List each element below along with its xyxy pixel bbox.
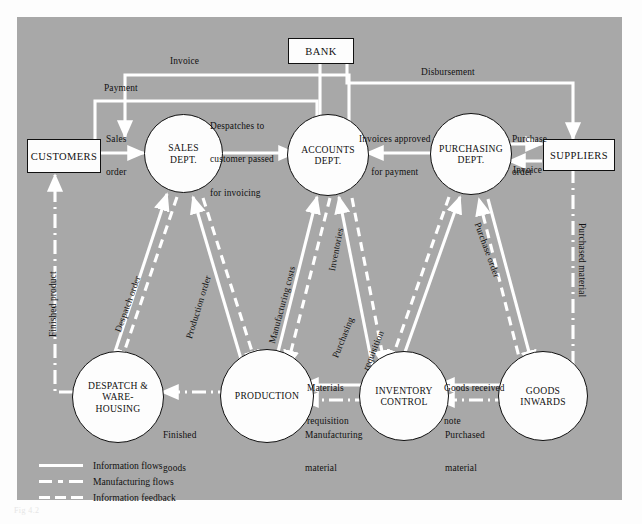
flow-label-invoices-approved-l2: for payment [359,167,431,178]
node-despatch-line3: HOUSING [88,403,148,414]
flow-label-despatches-l3: for invoicing [210,188,274,199]
node-despatch-warehousing[interactable]: DESPATCH & WARE- HOUSING [72,351,164,443]
flow-label-purchase-order-top: Purchase order [512,112,547,201]
node-purchasing-dept-line1: PURCHASING [439,143,503,154]
node-purchasing-dept[interactable]: PURCHASING DEPT. [430,113,512,195]
flow-label-materials-requisition-l1: Materials [307,383,349,394]
flow-label-manufacturing-material-l2: material [305,463,363,474]
node-customers-label: CUSTOMERS [31,151,97,162]
flow-label-purchased-material-bottom-l2: material [445,463,485,474]
node-production[interactable]: PRODUCTION [220,349,314,443]
legend-label-information-flows: Information flows [93,460,163,471]
legend-key-solid-icon [39,460,83,470]
flow-label-sales-order-l1: Sales [106,134,127,145]
legend-item-information-flows: Information flows [39,457,176,473]
legend-item-information-feedback: Information feedback [39,489,176,505]
flow-label-purchased-material-right: Purchased material [576,223,587,297]
node-inventory-line1: INVENTORY [375,385,433,396]
node-purchasing-dept-line2: DEPT. [439,154,503,165]
flow-label-invoice-top: Invoice [170,56,199,67]
flow-label-sales-order: Sales order [106,112,127,201]
node-goods-inwards[interactable]: GOODS INWARDS [498,351,588,441]
flow-label-manufacturing-material-l1: Manufacturing [305,430,363,441]
flow-label-finished-goods-l1: Finished [163,430,197,441]
legend-key-dashed-icon [39,492,83,502]
flow-label-payment: Payment [104,83,138,94]
flow-label-purchased-material-bottom: Purchased material [445,408,485,497]
flow-label-invoices-approved-l1: Invoices approved [359,134,431,145]
flow-label-purchased-material-bottom-l1: Purchased [445,430,485,441]
legend: Information flows Manufacturing flows In… [39,457,176,505]
node-suppliers[interactable]: SUPPLIERS [543,139,615,171]
node-sales-dept-line1: SALES [168,142,199,153]
legend-label-manufacturing-flows: Manufacturing flows [93,476,174,487]
flow-label-despatches-l1: Despatches to [210,121,274,132]
node-despatch-line1: DESPATCH & [88,380,148,391]
flow-label-purchasing-requisition-l2: requisition [361,328,388,372]
flow-label-manufacturing-material: Manufacturing material [305,408,363,497]
node-goods-inwards-line1: GOODS [520,385,565,396]
node-sales-dept-line2: DEPT. [168,154,199,165]
flow-label-purchasing-requisition-l1: Purchasing [330,315,357,359]
legend-label-information-feedback: Information feedback [93,492,176,503]
flow-label-despatches: Despatches to customer passed for invoic… [210,99,274,221]
diagram-panel: CUSTOMERS BANK SUPPLIERS SALES DEPT. ACC… [17,17,622,500]
node-inventory-line2: CONTROL [375,396,433,407]
node-suppliers-label: SUPPLIERS [550,150,608,161]
flow-label-despatches-l2: customer passed [210,154,274,165]
node-goods-inwards-line2: INWARDS [520,396,565,407]
node-accounts-dept[interactable]: ACCOUNTS DEPT. [287,114,369,196]
flow-label-purchase-order-top-l1: Purchase [512,134,547,145]
flow-label-invoices-approved: Invoices approved for payment [359,112,431,201]
node-bank[interactable]: BANK [288,38,354,64]
flow-label-finished-product: Finished product [48,271,59,337]
node-customers[interactable]: CUSTOMERS [27,139,101,173]
figure-stage: CUSTOMERS BANK SUPPLIERS SALES DEPT. ACC… [0,0,642,524]
node-bank-label: BANK [305,46,336,57]
node-production-line1: PRODUCTION [235,390,299,401]
figure-caption: Fig 4.2 [14,506,39,515]
flow-label-sales-order-l2: order [106,167,127,178]
node-accounts-dept-line1: ACCOUNTS [301,144,355,155]
legend-key-dash-dot-icon [39,476,83,486]
node-accounts-dept-line2: DEPT. [301,155,355,166]
legend-item-manufacturing-flows: Manufacturing flows [39,473,176,489]
flow-label-invoice-suppliers: Invoice [513,165,542,176]
node-despatch-line2: WARE- [88,391,148,402]
flow-label-disbursement: Disbursement [421,67,475,78]
flow-label-goods-received-note-l1: Goods received [444,383,505,394]
